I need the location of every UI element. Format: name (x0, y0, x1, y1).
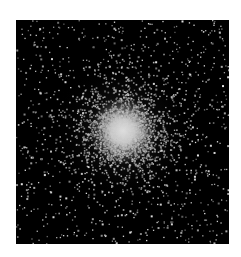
star-field-canvas (16, 20, 229, 244)
star-cluster-image (16, 20, 229, 244)
